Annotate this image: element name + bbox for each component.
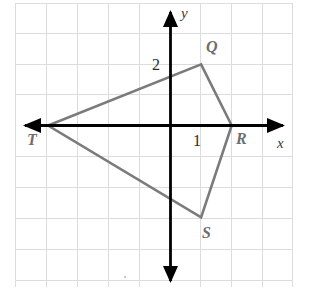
- vertex-label-r: R: [236, 131, 247, 147]
- vertex-label-q: Q: [206, 39, 218, 55]
- x-axis-right-arrow-icon: [267, 118, 285, 133]
- vertex-label-s: S: [202, 225, 211, 241]
- x-axis-label: x: [277, 136, 284, 151]
- y-axis-label: y: [181, 6, 188, 21]
- y-axis-up-arrow-icon: [163, 10, 178, 27]
- vertex-label-t: T: [27, 132, 37, 148]
- y-tick-label-2: 2: [152, 57, 160, 73]
- x-tick-label-1: 1: [193, 133, 201, 149]
- coordinate-plane-canvas: [0, 0, 314, 302]
- y-axis: [163, 10, 178, 283]
- grid-horizontal-lines: [15, 4, 293, 281]
- grid-vertical-lines: [16, 3, 293, 287]
- coordinate-plane-figure: y x 2 1 Q R S T: [0, 0, 314, 302]
- scan-speck: [124, 276, 126, 278]
